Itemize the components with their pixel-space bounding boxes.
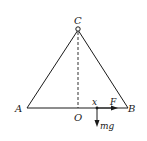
label-o: O (74, 112, 82, 123)
physics-diagram: C A B O x F mg (0, 0, 147, 141)
label-x: x (92, 97, 97, 107)
label-a: A (14, 103, 22, 114)
label-b: B (127, 103, 135, 114)
side-cb (78, 30, 128, 108)
weight-mg-arrowhead (95, 120, 100, 127)
side-ca (27, 30, 78, 108)
pivot-c (76, 27, 80, 31)
label-f: F (109, 97, 117, 107)
label-mg: mg (100, 121, 115, 131)
label-c: C (74, 15, 82, 26)
